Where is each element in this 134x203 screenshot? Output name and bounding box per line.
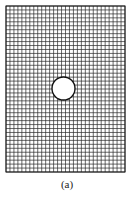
mesh-diagram — [0, 0, 134, 203]
figure-caption: (a) — [0, 178, 134, 190]
circular-hole — [52, 77, 75, 100]
